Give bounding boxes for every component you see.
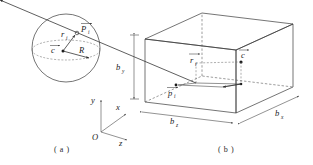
- box-front-face: [145, 39, 236, 113]
- box-base-arrow-2: [223, 84, 241, 87]
- axis-x-label: x: [115, 102, 120, 112]
- axis-x-line: [101, 114, 126, 132]
- box-ri-label: r: [190, 55, 194, 65]
- dim-bx-line: [240, 96, 299, 123]
- sphere-P-subscript: i: [88, 29, 90, 35]
- dim-bz-label: b: [170, 116, 174, 126]
- box-right-face: [236, 24, 293, 113]
- box-top-face: [145, 13, 293, 50]
- box-ri-subscript: i: [195, 61, 197, 67]
- radius-vector-arrow: [63, 51, 89, 58]
- axis-y-label: y: [90, 95, 95, 105]
- dim-bz-subscript: z: [175, 122, 179, 128]
- dim-bx-label: b: [275, 108, 279, 118]
- sphere-equator-back: [32, 40, 100, 50]
- ri-vector-arrow: [63, 35, 75, 51]
- sphere-ri-subscript: i: [66, 35, 68, 41]
- axis-origin-label: O: [92, 132, 98, 142]
- figure-container: c R r i P i ( a ) y x z O: [0, 0, 313, 165]
- caption-b: ( b ): [218, 145, 234, 154]
- coordinate-axes: y x z O: [90, 95, 127, 148]
- sphere-ri-label: r: [61, 29, 65, 39]
- sphere-P-label: P: [80, 24, 86, 34]
- caption-a: ( a ): [54, 145, 70, 154]
- box-pi-label: p: [167, 88, 172, 98]
- axis-z-label: z: [118, 138, 123, 148]
- panel-a-sphere: c R r i P i ( a ): [32, 14, 100, 154]
- box-ri-top-guide: [196, 62, 239, 63]
- box-c-label: c: [241, 50, 245, 60]
- box-pi-subscript: i: [174, 93, 176, 99]
- sphere-outline: [32, 14, 100, 82]
- axis-z-line: [101, 132, 127, 140]
- sphere-R-label: R: [78, 45, 85, 55]
- dim-by-label: b: [116, 62, 120, 72]
- dim-bz-line: [142, 112, 233, 123]
- sphere-c-label: c: [51, 45, 55, 55]
- dim-bx-subscript: x: [280, 114, 284, 120]
- box-base-parallelogram: [178, 83, 241, 87]
- dim-by-subscript: y: [121, 68, 125, 74]
- figure-svg: c R r i P i ( a ) y x z O: [0, 0, 313, 165]
- box-pi-point: [175, 84, 178, 87]
- panel-b-bounding-box: r i c p i b y b z b x ( b ): [0, 0, 299, 154]
